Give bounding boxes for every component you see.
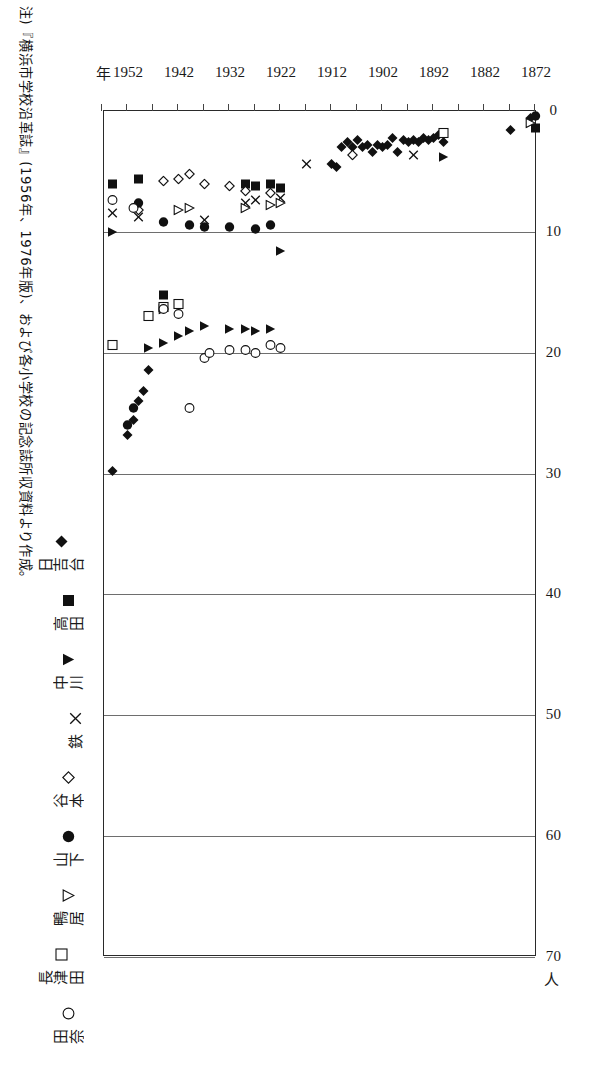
data-point [419, 135, 437, 146]
data-point [236, 202, 254, 213]
data-point [409, 137, 427, 148]
value-tick-label: 40 [546, 585, 562, 602]
data-point [343, 142, 361, 153]
year-tick [356, 104, 357, 111]
data-point [129, 205, 147, 216]
data-point [404, 135, 422, 146]
legend-item-label: 中川 [53, 672, 84, 693]
data-point [261, 340, 279, 351]
year-axis-unit: 年 [96, 62, 111, 83]
year-tick [254, 104, 255, 111]
value-tick-label: 30 [546, 464, 562, 481]
data-point [383, 132, 401, 143]
data-point [154, 338, 172, 349]
data-point [526, 110, 544, 121]
year-tick-label: 1932 [215, 64, 245, 81]
data-point [139, 364, 157, 375]
year-tick-label: 1912 [317, 64, 347, 81]
filled-circle-icon [60, 828, 78, 846]
data-point [388, 147, 406, 158]
data-point [195, 321, 213, 332]
data-point [129, 173, 147, 184]
value-tick-label: 50 [546, 706, 562, 723]
data-point [169, 309, 187, 320]
data-point [180, 325, 198, 336]
legend-item-7[interactable]: 長津田 [38, 946, 85, 988]
legend-item-label: 鉄 [67, 731, 83, 752]
legend-item-2[interactable]: 中川 [53, 651, 84, 693]
rotated-figure: 注)『横浜市学校沿革誌』(1956年、1976年版)、および各小学校の記念誌所収… [0, 0, 596, 1065]
data-point [368, 139, 386, 150]
data-point [180, 219, 198, 230]
data-point [124, 415, 142, 426]
data-point [154, 217, 172, 228]
data-point [103, 178, 121, 189]
year-tick [483, 104, 484, 111]
data-point [246, 325, 264, 336]
data-point [103, 340, 121, 351]
data-point [363, 147, 381, 158]
value-gridline [104, 957, 535, 958]
data-point [271, 197, 289, 208]
data-point [154, 289, 172, 300]
legend-item-label: 高田 [53, 613, 84, 634]
legend-item-0[interactable]: 日吉台 [38, 533, 85, 575]
legend-item-label: 日吉台 [38, 554, 85, 575]
data-point [434, 137, 452, 148]
data-point [373, 142, 391, 153]
year-tick [279, 104, 280, 111]
data-point [195, 178, 213, 189]
data-point [246, 224, 264, 235]
value-gridline [104, 594, 535, 595]
data-point [103, 466, 121, 477]
year-tick [305, 104, 306, 111]
value-tick-label: 20 [546, 343, 562, 360]
filled-right-triangle-icon [60, 651, 78, 669]
data-point [195, 214, 213, 225]
data-point [434, 151, 452, 162]
data-point [180, 403, 198, 414]
data-point [343, 149, 361, 160]
data-point [154, 301, 172, 312]
year-tick-label: 1922 [266, 64, 296, 81]
legend-item-3[interactable]: 鉄 [66, 710, 84, 752]
data-point [521, 113, 539, 124]
data-point [261, 323, 279, 334]
legend-item-6[interactable]: 鴨居 [53, 887, 84, 929]
legend-item-1[interactable]: 高田 [53, 592, 84, 634]
value-tick-label: 60 [546, 827, 562, 844]
data-point [526, 122, 544, 133]
year-tick [458, 104, 459, 111]
open-right-triangle-icon [60, 887, 78, 905]
legend-item-label: 鴨居 [53, 908, 84, 929]
legend-item-label: 谷本 [53, 790, 84, 811]
year-tick [152, 104, 153, 111]
data-point [139, 311, 157, 322]
year-tick-label: 1952 [113, 64, 143, 81]
year-tick [228, 104, 229, 111]
value-gridline [104, 836, 535, 837]
data-point [220, 180, 238, 191]
data-point [271, 183, 289, 194]
year-tick [126, 104, 127, 111]
data-point [180, 202, 198, 213]
value-tick-label: 70 [546, 948, 562, 965]
legend-item-label: 長津田 [38, 967, 85, 988]
data-point [521, 118, 539, 129]
data-point [180, 168, 198, 179]
legend-item-5[interactable]: 山下 [53, 828, 84, 870]
data-point [434, 127, 452, 138]
data-point [103, 207, 121, 218]
year-tick [509, 104, 510, 111]
year-tick-label: 1882 [470, 64, 500, 81]
data-point [429, 130, 447, 141]
data-point [169, 299, 187, 310]
data-point [124, 202, 142, 213]
legend-item-4[interactable]: 谷本 [53, 769, 84, 811]
legend-item-8[interactable]: 田奈 [53, 1005, 84, 1047]
data-point [169, 330, 187, 341]
data-point [338, 137, 356, 148]
year-tick-label: 1902 [368, 64, 398, 81]
year-tick [407, 104, 408, 111]
value-gridline [104, 715, 535, 716]
